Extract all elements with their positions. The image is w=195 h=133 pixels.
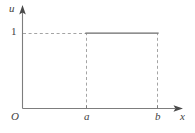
y-axis-label: u: [9, 3, 15, 14]
rectangular-pulse-plot: [0, 0, 195, 133]
figure-container: u x O 1 a b: [0, 0, 195, 133]
x-tick-label-b: b: [155, 111, 161, 122]
origin-label: O: [11, 111, 19, 122]
y-tick-label-one: 1: [11, 26, 17, 37]
x-axis-label: x: [180, 111, 185, 122]
x-tick-label-a: a: [84, 111, 90, 122]
